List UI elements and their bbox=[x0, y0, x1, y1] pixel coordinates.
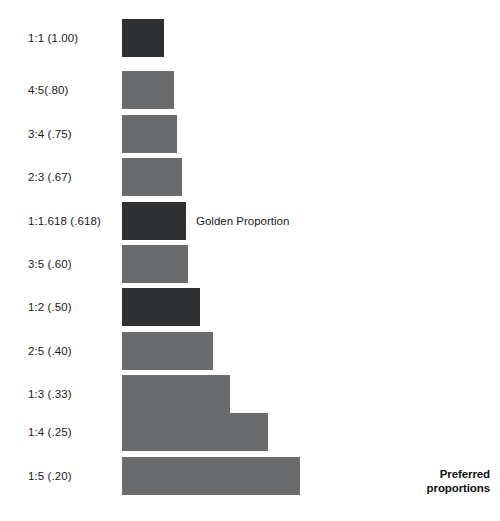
bar bbox=[122, 245, 188, 283]
row-label: 2:3 (.67) bbox=[28, 158, 72, 197]
row-label: 1:1 (1.00) bbox=[28, 19, 78, 58]
bar bbox=[122, 19, 164, 57]
row-label: 2:5 (.40) bbox=[28, 332, 72, 371]
chart-row: 1:1 (1.00) bbox=[0, 19, 500, 58]
chart-row: 3:5 (.60) bbox=[0, 245, 500, 284]
row-label: 1:2 (.50) bbox=[28, 288, 72, 327]
bar bbox=[122, 202, 186, 240]
chart-row: 2:5 (.40) bbox=[0, 332, 500, 371]
caption-line-1: Preferred bbox=[310, 468, 490, 482]
golden-proportion-annotation: Golden Proportion bbox=[196, 202, 289, 241]
row-label: 3:4 (.75) bbox=[28, 115, 72, 154]
bar bbox=[122, 375, 230, 413]
bar bbox=[122, 71, 174, 109]
bar bbox=[122, 332, 213, 370]
preferred-proportions-chart: 1:1 (1.00) 4:5(.80) 3:4 (.75) 2:3 (.67) … bbox=[0, 0, 500, 521]
row-label: 4:5(.80) bbox=[28, 71, 68, 110]
row-label: 1:4 (.25) bbox=[28, 413, 72, 452]
bar bbox=[122, 413, 268, 451]
row-label: 1:1.618 (.618) bbox=[28, 202, 101, 241]
caption-line-2: proportions bbox=[310, 482, 490, 496]
bar bbox=[122, 288, 200, 326]
row-label: 1:3 (.33) bbox=[28, 375, 72, 414]
bar bbox=[122, 457, 300, 495]
chart-caption: Preferred proportions bbox=[310, 468, 490, 495]
chart-row-golden: 1:1.618 (.618) Golden Proportion bbox=[0, 202, 500, 241]
chart-row: 3:4 (.75) bbox=[0, 115, 500, 154]
chart-row: 2:3 (.67) bbox=[0, 158, 500, 197]
row-label: 3:5 (.60) bbox=[28, 245, 72, 284]
bar bbox=[122, 158, 182, 196]
bar bbox=[122, 115, 177, 153]
chart-row: 1:2 (.50) bbox=[0, 288, 500, 327]
chart-row: 1:3 (.33) bbox=[0, 375, 500, 414]
chart-row: 1:4 (.25) bbox=[0, 413, 500, 452]
chart-row: 4:5(.80) bbox=[0, 71, 500, 110]
row-label: 1:5 (.20) bbox=[28, 457, 72, 496]
